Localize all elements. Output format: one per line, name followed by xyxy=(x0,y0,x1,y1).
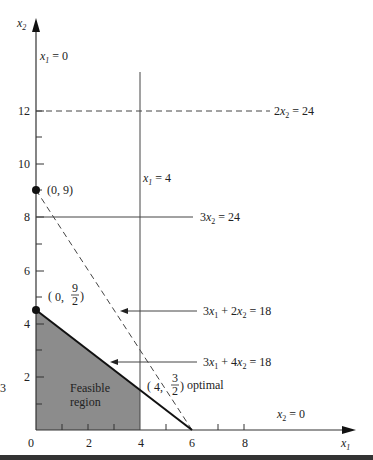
label-point-0-9: (0, 9) xyxy=(47,183,73,197)
x-tick-4: 4 xyxy=(138,436,144,450)
y-tick-6: 6 xyxy=(24,264,30,278)
arrow-left-icon xyxy=(110,359,118,365)
label-x2-eq-0: x2 = 0 xyxy=(276,407,305,423)
x-axis-label: x1 xyxy=(340,436,350,452)
x-tick-8: 8 xyxy=(242,436,248,450)
bottom-rule xyxy=(0,455,373,460)
x-tick-2: 2 xyxy=(86,436,92,450)
svg-text:4,: 4, xyxy=(154,380,163,394)
svg-text:3: 3 xyxy=(172,371,178,385)
y-tick-12: 12 xyxy=(18,104,30,118)
svg-text:9: 9 xyxy=(72,281,78,295)
feasible-region-label-1: Feasible xyxy=(70,381,110,395)
feasible-region xyxy=(36,310,140,430)
label-x1-eq-0: x1 = 0 xyxy=(39,49,68,65)
label-3x1-4x2-eq-18: 3x1 + 4x2 = 18 xyxy=(203,355,271,371)
point-0-9 xyxy=(32,186,40,194)
svg-text:optimal: optimal xyxy=(187,378,224,392)
x-tick-6: 6 xyxy=(189,436,195,450)
svg-text:(: ( xyxy=(147,379,151,393)
label-point-0-9-over-2: ( 0, 9 2 ) xyxy=(48,281,84,308)
y-tick-10: 10 xyxy=(18,157,30,171)
lp-graphical-solution-diagram: 12 10 8 6 4 2 0 2 4 6 8 x2 x1 x1 = 0 x1 … xyxy=(0,0,373,460)
point-0-4.5 xyxy=(32,306,40,314)
label-point-4-3-over-2-optimal: ( 4, 3 2 ) optimal xyxy=(147,371,224,398)
x-axis-arrow-icon xyxy=(342,426,356,434)
y-tick-2: 2 xyxy=(24,370,30,384)
margin-mark: 3 xyxy=(0,381,6,395)
svg-text:): ) xyxy=(80,289,84,303)
svg-text:0,: 0, xyxy=(55,290,64,304)
svg-text:(: ( xyxy=(48,289,52,303)
label-x1-eq-4: x1 = 4 xyxy=(142,171,171,187)
y-axis-arrow-icon xyxy=(32,18,40,32)
label-3x1-2x2-eq-18: 3x1 + 2x2 = 18 xyxy=(203,304,271,320)
arrow-left-icon xyxy=(120,308,128,314)
y-tick-4: 4 xyxy=(24,317,30,331)
svg-text:): ) xyxy=(180,379,184,393)
feasible-region-label-2: region xyxy=(70,395,101,409)
x-tick-0: 0 xyxy=(28,436,34,450)
svg-text:2: 2 xyxy=(172,384,178,398)
svg-text:2: 2 xyxy=(72,294,78,308)
label-3x2-eq-24: 3x2 = 24 xyxy=(200,210,240,226)
y-axis-label: x2 xyxy=(16,16,26,32)
label-2x2-eq-24: 2x2 = 24 xyxy=(274,104,314,120)
y-tick-8: 8 xyxy=(24,210,30,224)
